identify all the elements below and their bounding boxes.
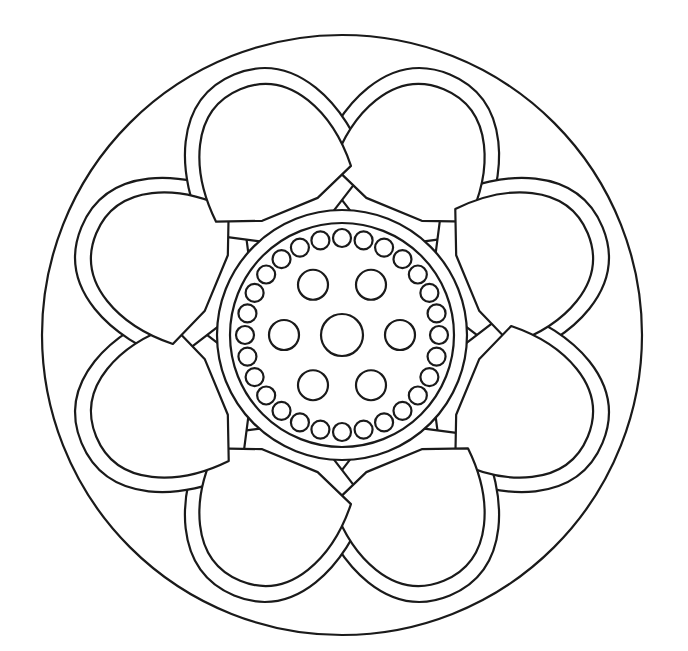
ring-dot xyxy=(355,231,373,249)
inner-circle xyxy=(385,320,415,350)
ring-dot xyxy=(246,368,264,386)
ring-dot xyxy=(236,326,254,344)
ring-dot xyxy=(420,368,438,386)
ring-dot xyxy=(273,250,291,268)
inner-circle xyxy=(356,270,386,300)
ring-dot xyxy=(409,266,427,284)
ring-dot xyxy=(430,326,448,344)
ring-dot xyxy=(393,250,411,268)
ring-dot xyxy=(257,386,275,404)
ring-dot xyxy=(375,239,393,257)
ring-dot xyxy=(355,421,373,439)
center-circle xyxy=(321,314,363,356)
ring-dot xyxy=(375,413,393,431)
mandala-svg xyxy=(0,0,688,651)
ring-dot xyxy=(238,304,256,322)
ring-dot xyxy=(257,266,275,284)
inner-circle xyxy=(298,270,328,300)
ring-dot xyxy=(409,386,427,404)
ring-dot xyxy=(420,284,438,302)
ring-dot xyxy=(428,304,446,322)
inner-circle xyxy=(269,320,299,350)
ring-dot xyxy=(311,231,329,249)
ring-dot xyxy=(393,402,411,420)
ring-dot xyxy=(291,239,309,257)
inner-circle xyxy=(356,370,386,400)
inner-circle xyxy=(298,370,328,400)
ring-dot xyxy=(428,348,446,366)
ring-dot xyxy=(238,348,256,366)
ring-dot xyxy=(246,284,264,302)
ring-dot xyxy=(273,402,291,420)
ring-dot xyxy=(291,413,309,431)
mandala-artwork xyxy=(0,0,688,651)
ring-dot xyxy=(333,423,351,441)
ring-dot xyxy=(311,421,329,439)
ring-dot xyxy=(333,229,351,247)
